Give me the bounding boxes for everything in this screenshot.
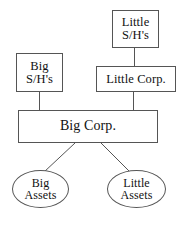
node-little-corp[interactable]: Little Corp. [96,66,176,92]
edge-big-corp-to-big-assets [44,143,75,172]
node-little-assets[interactable]: Little Assets [107,170,166,208]
node-big-assets[interactable]: Big Assets [12,170,69,208]
edge-big-corp-to-little-assets [101,143,130,172]
node-big-shareholders[interactable]: Big S/H's [16,53,63,92]
node-big-shareholders-label: Big S/H's [26,60,53,86]
node-big-assets-label: Big Assets [25,177,57,201]
diagram-canvas: Little S/H's Big S/H's Little Corp. Big … [0,0,182,225]
node-big-corp-label: Big Corp. [60,119,116,133]
node-little-corp-label: Little Corp. [106,73,166,86]
node-little-shareholders-label: Little S/H's [122,16,150,42]
node-little-shareholders[interactable]: Little S/H's [112,10,159,48]
node-little-assets-label: Little Assets [121,177,153,201]
node-big-corp[interactable]: Big Corp. [18,110,158,143]
